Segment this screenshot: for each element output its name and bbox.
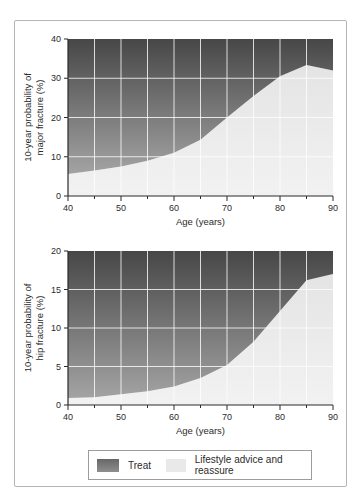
x-axis-title: Age (years) xyxy=(176,425,225,436)
legend-item-lifestyle: Lifestyle advice and reassure xyxy=(166,454,311,476)
y-tick-label: 40 xyxy=(51,34,61,44)
y-tick-label: 15 xyxy=(51,285,61,295)
x-tick-label: 50 xyxy=(116,203,126,213)
y-axis-title-line: major fracture (%) xyxy=(34,79,45,155)
major-fracture-chart: 010203040405060708090Age (years)10-year … xyxy=(14,20,348,235)
x-tick-label: 90 xyxy=(328,203,338,213)
x-tick-label: 40 xyxy=(63,203,73,213)
treat-swatch xyxy=(97,459,119,472)
y-tick-label: 0 xyxy=(56,191,61,201)
x-tick-label: 70 xyxy=(222,203,232,213)
x-tick-label: 70 xyxy=(222,412,232,422)
x-tick-label: 80 xyxy=(275,203,285,213)
x-tick-label: 80 xyxy=(275,412,285,422)
lifestyle-swatch xyxy=(166,459,186,472)
x-tick-label: 60 xyxy=(169,203,179,213)
x-tick-label: 60 xyxy=(169,412,179,422)
legend-label-treat: Treat xyxy=(128,460,151,471)
legend-item-treat: Treat xyxy=(97,459,151,472)
y-axis-title-line: 10-year probability of xyxy=(22,73,33,162)
y-tick-label: 0 xyxy=(56,400,61,410)
x-tick-label: 50 xyxy=(116,412,126,422)
legend-label-lifestyle: Lifestyle advice and reassure xyxy=(195,454,311,476)
y-tick-label: 10 xyxy=(51,152,61,162)
y-axis-title-line: hip fracture (%) xyxy=(34,296,45,361)
y-tick-label: 30 xyxy=(51,73,61,83)
y-tick-label: 20 xyxy=(51,246,61,256)
y-axis-title-line: 10-year probability of xyxy=(22,283,33,372)
x-tick-label: 40 xyxy=(63,412,73,422)
figure-page: 010203040405060708090Age (years)10-year … xyxy=(0,0,362,498)
y-tick-label: 5 xyxy=(56,362,61,372)
legend: Treat Lifestyle advice and reassure xyxy=(88,450,312,480)
hip-fracture-chart: 05101520405060708090Age (years)10-year p… xyxy=(14,230,348,445)
y-tick-label: 10 xyxy=(51,323,61,333)
y-tick-label: 20 xyxy=(51,113,61,123)
x-axis-title: Age (years) xyxy=(176,216,225,227)
x-tick-label: 90 xyxy=(328,412,338,422)
